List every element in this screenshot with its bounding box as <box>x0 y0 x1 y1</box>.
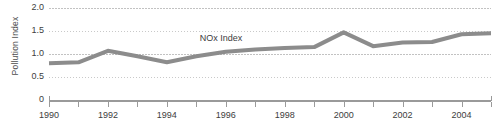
x-tick-label-1990: 1990 <box>29 110 69 120</box>
x-tick-1991 <box>78 102 79 107</box>
x-tick-2003 <box>432 102 433 107</box>
x-axis-line <box>49 100 491 102</box>
x-tick-label-1994: 1994 <box>147 110 187 120</box>
x-tick-1997 <box>255 102 256 107</box>
y-tick-label-0: 0 <box>0 94 44 104</box>
y-tick-label-1.5: 1.5 <box>0 25 44 35</box>
x-axis-cap-left <box>49 96 50 101</box>
plot-area: NOx Index <box>49 8 491 100</box>
x-tick-1992 <box>108 102 109 107</box>
x-tick-label-1992: 1992 <box>88 110 128 120</box>
x-tick-label-1998: 1998 <box>265 110 305 120</box>
x-tick-2002 <box>403 102 404 107</box>
y-tick-label-1.0: 1.0 <box>0 48 44 58</box>
x-axis-cap-right <box>491 96 492 101</box>
x-tick-label-1996: 1996 <box>206 110 246 120</box>
x-tick-1994 <box>167 102 168 107</box>
x-tick-1993 <box>137 102 138 107</box>
nox-index-line-chart: Pollution Index 2.01.51.00.50 NOx Index … <box>0 0 499 138</box>
series-nox-index <box>49 8 491 100</box>
x-tick-1995 <box>196 102 197 107</box>
x-tick-2000 <box>344 102 345 107</box>
x-tick-1999 <box>314 102 315 107</box>
x-tick-label-2000: 2000 <box>324 110 364 120</box>
x-tick-2004 <box>462 102 463 107</box>
x-tick-label-2004: 2004 <box>442 110 482 120</box>
x-tick-1996 <box>226 102 227 107</box>
x-tick-1998 <box>285 102 286 107</box>
x-tick-label-2002: 2002 <box>383 110 423 120</box>
series-annotation-nox-index: NOx Index <box>200 33 243 43</box>
x-tick-2005 <box>491 102 492 107</box>
x-tick-1990 <box>49 102 50 107</box>
x-tick-2001 <box>373 102 374 107</box>
y-tick-label-2.0: 2.0 <box>0 2 44 12</box>
y-tick-label-0.5: 0.5 <box>0 71 44 81</box>
